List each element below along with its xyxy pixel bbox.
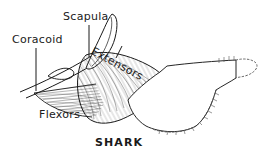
figure-caption: SHARK <box>95 136 143 149</box>
shark-fin-anatomy-figure: Coracoid Scapula Extensors Flexors SHARK <box>0 0 268 162</box>
label-flexors: Flexors <box>39 108 80 121</box>
label-scapula: Scapula <box>63 10 109 23</box>
label-coracoid: Coracoid <box>12 33 63 46</box>
